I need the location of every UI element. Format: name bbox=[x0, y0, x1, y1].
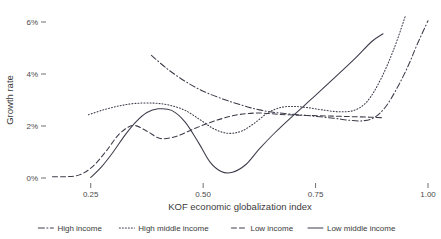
legend-label-low-middle-income[interactable]: Low middle income bbox=[327, 224, 396, 233]
y-tick-label: 4% bbox=[26, 70, 38, 79]
legend-label-low-income[interactable]: Low income bbox=[250, 224, 293, 233]
growth-rate-chart: 0%2%4%6% 0.250.500.751.00 Growth rate KO… bbox=[0, 0, 441, 239]
y-axis-title: Growth rate bbox=[4, 75, 15, 125]
y-axis: 0%2%4%6% bbox=[26, 18, 46, 183]
y-tick-label: 6% bbox=[26, 18, 38, 27]
series-line-low-income bbox=[53, 113, 384, 177]
x-tick-label: 0.25 bbox=[83, 190, 99, 199]
series-lines bbox=[53, 16, 429, 178]
x-tick-label: 0.50 bbox=[195, 190, 211, 199]
chart-legend: High incomeHigh middle incomeLow incomeL… bbox=[38, 224, 396, 233]
y-tick-label: 2% bbox=[26, 122, 38, 131]
legend-label-high-income[interactable]: High income bbox=[57, 224, 102, 233]
y-tick-label: 0% bbox=[26, 174, 38, 183]
x-tick-label: 0.75 bbox=[308, 190, 324, 199]
legend-label-high-middle-income[interactable]: High middle income bbox=[138, 224, 209, 233]
series-line-high-middle-income bbox=[88, 16, 405, 134]
series-line-low-middle-income bbox=[91, 34, 383, 178]
x-tick-label: 1.00 bbox=[420, 190, 436, 199]
chart-canvas: 0%2%4%6% 0.250.500.751.00 Growth rate KO… bbox=[0, 0, 441, 239]
series-line-high-income bbox=[151, 21, 428, 121]
x-axis-title: KOF economic globalization index bbox=[168, 201, 312, 212]
x-axis: 0.250.500.751.00 bbox=[83, 183, 436, 199]
